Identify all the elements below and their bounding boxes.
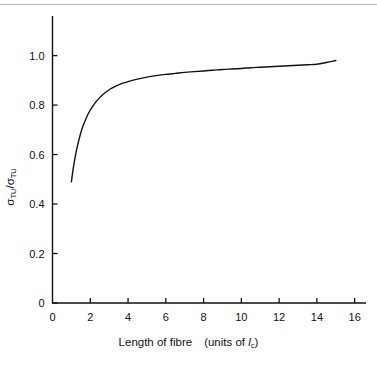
x-axis-title: Length of fibre(units of lc) xyxy=(0,336,377,350)
series-line-strength-ratio xyxy=(71,61,335,182)
x-axis-title-main: Length of fibre xyxy=(119,336,193,348)
x-axis-units-open: (units of xyxy=(204,336,248,348)
x-tick-marks xyxy=(90,298,354,303)
y-axis-numerator-symbol: σ xyxy=(4,199,16,206)
x-tick-label: 14 xyxy=(302,311,332,323)
y-tick-label: 0.2 xyxy=(11,248,45,260)
x-tick-label: 2 xyxy=(75,311,105,323)
y-axis-title: σTU/σTU xyxy=(4,142,18,232)
y-axis-denominator-symbol: σ xyxy=(4,178,16,185)
x-tick-label: 0 xyxy=(38,311,68,323)
x-tick-label: 8 xyxy=(189,311,219,323)
x-tick-label: 10 xyxy=(226,311,256,323)
y-axis-divider: / xyxy=(4,185,16,188)
x-tick-label: 4 xyxy=(113,311,143,323)
x-axis-units-close: ) xyxy=(255,336,259,348)
y-axis-numerator-subscript: TU xyxy=(9,189,18,199)
y-tick-marks xyxy=(53,56,58,303)
y-tick-label: 0 xyxy=(11,297,45,309)
y-axis-denominator-subscript: TU xyxy=(9,168,18,178)
x-tick-label: 16 xyxy=(340,311,370,323)
x-tick-label: 6 xyxy=(151,311,181,323)
y-tick-label: 0.8 xyxy=(11,99,45,111)
y-tick-label: 1.0 xyxy=(11,50,45,62)
chart-figure: 0246810121416 00.20.40.60.81.0 Length of… xyxy=(0,0,377,365)
x-tick-label: 12 xyxy=(264,311,294,323)
